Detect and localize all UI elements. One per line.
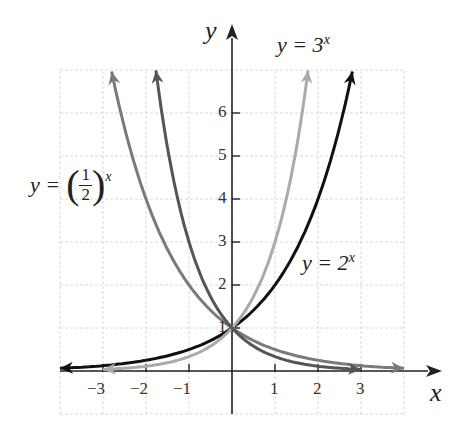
curve	[60, 72, 352, 369]
y-tick-label: 5	[218, 145, 227, 165]
label-2x: y = 2x	[302, 250, 355, 276]
curve	[112, 72, 404, 369]
x-tick-label: −1	[173, 379, 191, 399]
y-tick-label: 6	[218, 102, 227, 122]
label-3x: y = 3x	[277, 32, 330, 58]
x-tick-label: −2	[130, 379, 148, 399]
y-axis-label: y	[205, 16, 217, 46]
x-axis-arrow-icon	[426, 365, 442, 377]
y-tick-label: 4	[218, 188, 227, 208]
axes	[60, 24, 442, 414]
curve	[103, 70, 308, 369]
label-half-x: y = ( 1 2 ) x	[30, 165, 112, 205]
x-axis-label: x	[430, 378, 442, 408]
curve	[156, 70, 361, 369]
exponential-chart	[0, 0, 471, 438]
x-tick-label: 3	[356, 379, 365, 399]
y-tick-label: 1	[218, 317, 227, 337]
y-tick-label: 3	[218, 231, 227, 251]
x-tick-label: −3	[87, 379, 105, 399]
x-tick-label: 1	[270, 379, 279, 399]
x-tick-label: 2	[313, 379, 322, 399]
y-tick-label: 2	[218, 274, 227, 294]
y-axis-arrow-icon	[226, 24, 238, 40]
